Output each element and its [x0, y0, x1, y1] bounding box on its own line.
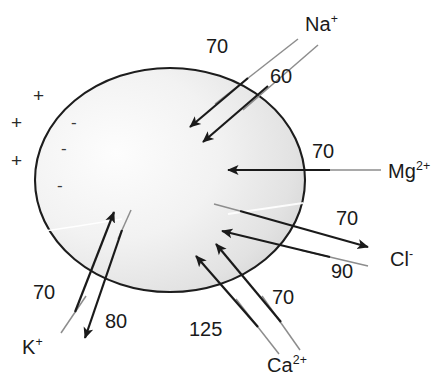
- ion-label-chloride-charge: -: [409, 247, 413, 261]
- ion-label-sodium: Na+: [305, 14, 338, 34]
- leader-line-potassium-70: [61, 296, 86, 333]
- membrane-charge-outside-3: +: [11, 151, 22, 170]
- flux-value-calcium-125: 125: [189, 319, 222, 339]
- ion-label-calcium-charge: 2+: [293, 353, 307, 367]
- flux-value-sodium-70: 70: [206, 36, 228, 56]
- flux-value-potassium-80: 80: [105, 311, 127, 331]
- membrane-charge-inside-1: -: [71, 114, 77, 131]
- flux-value-magnesium-70: 70: [312, 141, 334, 161]
- membrane-charge-outside-1: +: [33, 86, 44, 105]
- ion-label-calcium: Ca2+: [267, 355, 307, 375]
- flux-value-potassium-70: 70: [33, 282, 55, 302]
- ion-label-potassium: K+: [22, 337, 43, 357]
- cell-membrane: [35, 68, 305, 292]
- ion-label-potassium-text: K: [22, 336, 35, 358]
- membrane-charge-outside-2: +: [11, 113, 22, 132]
- ion-label-calcium-text: Ca: [267, 354, 293, 376]
- flux-value-calcium-70: 70: [272, 287, 294, 307]
- ion-label-sodium-text: Na: [305, 13, 331, 35]
- ion-label-magnesium-text: Mg: [388, 160, 416, 182]
- flux-value-sodium-60: 60: [270, 66, 292, 86]
- flux-value-chloride-90: 90: [331, 261, 353, 281]
- ion-label-magnesium-charge: 2+: [416, 159, 430, 173]
- ion-label-potassium-charge: +: [35, 335, 42, 349]
- membrane-charge-inside-2: -: [61, 140, 67, 157]
- ion-label-sodium-charge: +: [331, 12, 338, 26]
- membrane-charge-inside-3: -: [57, 177, 63, 194]
- ion-flux-diagram: + + + - - - Na+ Mg2+ Cl- Ca2+ K+ 70 60 7…: [0, 0, 439, 389]
- ion-label-magnesium: Mg2+: [388, 161, 430, 181]
- ion-label-chloride-text: Cl: [390, 248, 409, 270]
- flux-value-chloride-70: 70: [336, 208, 358, 228]
- ion-label-chloride: Cl-: [390, 249, 413, 269]
